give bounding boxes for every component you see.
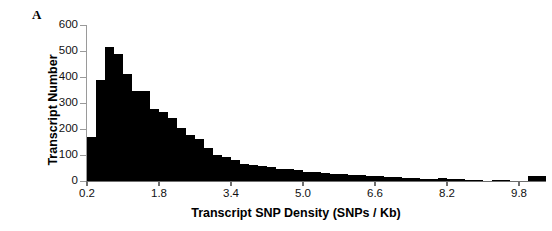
x-tick-8.2 [446, 181, 447, 186]
x-tick-0.2 [86, 181, 87, 186]
bar [132, 91, 141, 181]
y-tick-label-wrap: 0 [34, 175, 78, 187]
x-tick-label-8.2: 8.2 [427, 188, 467, 200]
y-tick-label-200: 200 [38, 123, 78, 135]
bar [141, 91, 150, 181]
bar [348, 175, 357, 181]
x-tick-9.8 [518, 181, 519, 186]
bar [150, 109, 159, 181]
bar [105, 47, 114, 181]
x-tick-label-5.0: 5.0 [283, 188, 323, 200]
bar [240, 164, 249, 181]
bar [177, 128, 186, 181]
bar [366, 176, 375, 181]
y-tick-label-100: 100 [38, 149, 78, 161]
x-tick-1.8 [158, 181, 159, 186]
bar [87, 137, 96, 181]
bar [456, 179, 465, 181]
y-tick-label-300: 300 [38, 97, 78, 109]
bar [339, 174, 348, 181]
bar [465, 180, 474, 181]
bar [537, 176, 546, 181]
bar [411, 178, 420, 181]
bar [384, 177, 393, 181]
bar [159, 112, 168, 181]
bar [321, 173, 330, 181]
y-tick-label-600: 600 [38, 19, 78, 31]
bar [501, 180, 510, 181]
bar [330, 174, 339, 181]
bar [195, 139, 204, 181]
bar [294, 170, 303, 181]
x-tick-5.0 [302, 181, 303, 186]
bar [528, 176, 537, 181]
x-tick-label-9.8: 9.8 [499, 188, 539, 200]
bar [222, 157, 231, 181]
bar [357, 175, 366, 181]
histogram-bars [87, 25, 545, 181]
x-tick-3.4 [230, 181, 231, 186]
bar [447, 179, 456, 181]
y-tick-label-wrap: 500 [34, 45, 78, 57]
y-tick-100 [80, 155, 86, 156]
bar [96, 80, 105, 181]
bar [492, 180, 501, 181]
x-tick-label-3.4: 3.4 [211, 188, 251, 200]
bar [375, 176, 384, 181]
bar [474, 180, 483, 181]
bar [276, 169, 285, 181]
x-tick-6.6 [374, 181, 375, 186]
bar [312, 172, 321, 181]
y-tick-label-wrap: 100 [34, 149, 78, 161]
bar [186, 135, 195, 181]
bar [285, 169, 294, 181]
bar [114, 54, 123, 181]
y-tick-label-wrap: 600 [34, 19, 78, 31]
bar [393, 177, 402, 181]
x-tick-label-6.6: 6.6 [355, 188, 395, 200]
bar [258, 166, 267, 181]
y-tick-label-0: 0 [38, 175, 78, 187]
y-tick-label-500: 500 [38, 45, 78, 57]
bar [249, 165, 258, 181]
y-tick-500 [80, 51, 86, 52]
y-tick-label-wrap: 300 [34, 97, 78, 109]
bar [420, 179, 429, 181]
y-tick-300 [80, 103, 86, 104]
bar [267, 167, 276, 181]
y-tick-label-400: 400 [38, 71, 78, 83]
y-tick-400 [80, 77, 86, 78]
y-tick-600 [80, 25, 86, 26]
x-tick-label-1.8: 1.8 [139, 188, 179, 200]
bar [303, 172, 312, 181]
y-tick-label-wrap: 200 [34, 123, 78, 135]
y-tick-200 [80, 129, 86, 130]
bar [231, 160, 240, 181]
y-tick-0 [80, 181, 86, 182]
x-axis-title: Transcript SNP Density (SNPs / Kb) [86, 206, 506, 220]
bar [168, 118, 177, 181]
figure-panel-a: A Transcript Number 0100200300400500600 … [0, 0, 552, 231]
y-tick-label-wrap: 400 [34, 71, 78, 83]
bar [438, 178, 447, 181]
bar [204, 148, 213, 181]
bar [429, 179, 438, 181]
bar [402, 178, 411, 181]
x-tick-label-0.2: 0.2 [67, 188, 107, 200]
bar [213, 155, 222, 181]
bar [123, 74, 132, 181]
